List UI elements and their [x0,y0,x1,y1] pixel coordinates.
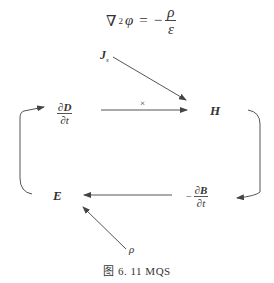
j-subscript: s [106,56,109,64]
node-h: H [210,103,220,119]
db-numerator: ∂B [194,184,209,197]
dd-numerator: ∂D [57,101,72,114]
cross-label: × [140,98,145,108]
db-denominator: ∂t [197,197,206,209]
node-dd-dt: ∂D ∂t [57,97,72,126]
arrow-e-to-dd [20,107,44,194]
arrow-rho-to-e [83,207,126,249]
figure-caption: 图 6. 11 MQS [0,262,274,278]
minus-sign: − [186,191,192,202]
diagram-arrows [0,0,274,283]
dd-denominator: ∂t [60,114,69,126]
node-current-density: Js [100,48,109,64]
node-rho: ρ [129,243,134,255]
arrow-js-to-h [113,57,186,100]
dd-dt-fraction: ∂D ∂t [57,101,72,126]
arrow-h-to-db [237,110,260,198]
node-e: E [53,188,62,204]
b-symbol: B [200,184,207,196]
node-db-dt: − ∂B ∂t [186,184,208,209]
db-dt-fraction: ∂B ∂t [194,184,209,209]
d-symbol: D [63,101,71,113]
